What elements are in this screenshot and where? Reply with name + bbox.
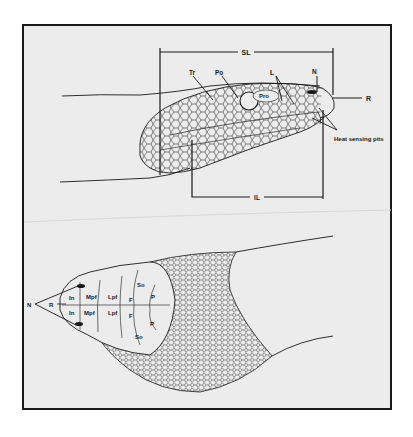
mpf-lower-label: Mpf <box>84 310 96 316</box>
sl-label: SL <box>242 49 252 56</box>
internasal-upper-label: In <box>69 295 75 301</box>
lateral-view: SL IL R Tr Po Pro L N Heat sensing pits <box>60 46 384 202</box>
lpf-lower-label: Lpf <box>108 310 118 316</box>
mpf-upper-label: Mpf <box>86 294 98 300</box>
heat-pits-label: Heat sensing pits <box>334 136 384 142</box>
nostril-upper <box>77 284 85 288</box>
il-label: IL <box>254 194 260 201</box>
nostril-lower <box>75 322 83 326</box>
so-lower-label: So <box>135 334 143 340</box>
dorsal-nasal-label: N <box>27 302 31 308</box>
rostral-label: R <box>366 95 371 102</box>
frontal-lower-label: F <box>129 313 133 319</box>
internasal-lower-label: In <box>69 310 75 316</box>
frontal-upper-label: F <box>129 297 133 303</box>
head-dorsal <box>60 262 175 355</box>
head-lateral <box>140 84 331 174</box>
temporal-label: Tr <box>189 69 196 76</box>
dorsal-view: N R In In Mpf Mpf Lpf Lpf F F So So P P <box>27 236 333 392</box>
so-upper-label: So <box>137 282 145 288</box>
postocular-label: Po <box>215 69 223 76</box>
snake-head-diagram: SL IL R Tr Po Pro L N Heat sensing pits <box>0 0 413 437</box>
nostril <box>307 90 317 94</box>
preocular-label: Pro <box>259 93 269 99</box>
lpf-upper-label: Lpf <box>108 294 118 300</box>
loreal-label: L <box>270 69 275 76</box>
nasal-label: N <box>312 68 317 75</box>
fold-line <box>24 210 391 222</box>
p-lower-label: P <box>150 321 154 327</box>
dorsal-rostral-label: R <box>49 302 54 308</box>
p-upper-label: P <box>151 294 155 300</box>
